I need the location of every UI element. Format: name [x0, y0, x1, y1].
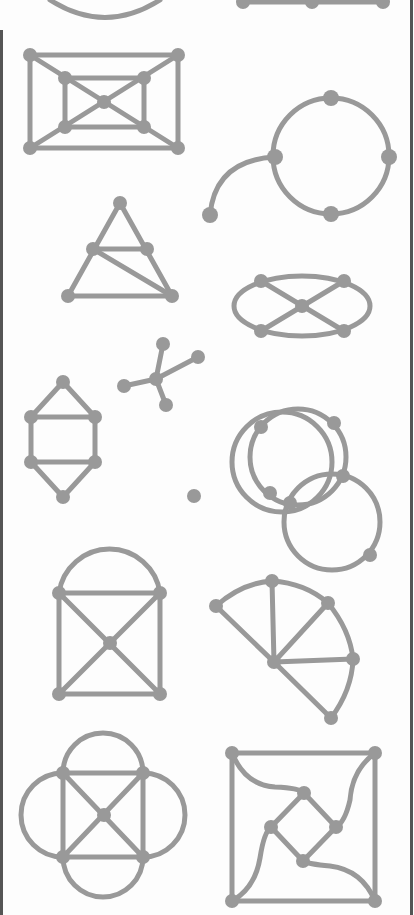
left-scan-border [0, 30, 3, 915]
graph-vertex [171, 141, 185, 155]
graph-vertex [86, 242, 100, 256]
graph-vertex [376, 0, 390, 9]
graph-edge [274, 603, 328, 662]
graph-edge [336, 753, 375, 827]
graph-vertex [267, 149, 283, 165]
graph-vertex [52, 687, 66, 701]
graph-vertex [153, 687, 167, 701]
three-interlocking-circles-graph [187, 409, 380, 570]
graph-vertex [52, 586, 66, 600]
graph-vertex [209, 599, 223, 613]
graph-vertex [263, 486, 277, 500]
hexagon-with-chords-graph [24, 375, 102, 504]
graph-edge [232, 412, 332, 512]
graph-vertex [381, 149, 397, 165]
graph-vertex [23, 141, 37, 155]
graph-vertex [337, 324, 351, 338]
graph-edge [21, 773, 63, 857]
graph-vertex [56, 490, 70, 504]
fan-sector-graph [209, 574, 360, 725]
star-tree-graph [117, 337, 205, 412]
graph-edge [232, 827, 271, 901]
graph-edge [232, 753, 304, 793]
graph-vertex [137, 120, 151, 134]
graph-vertex [97, 808, 111, 822]
graph-vertex [56, 375, 70, 389]
four-petal-square-graph [21, 733, 185, 897]
graph-vertex [97, 95, 111, 109]
graph-vertex [336, 469, 350, 483]
graph-vertex [267, 655, 281, 669]
graph-vertex [296, 854, 310, 868]
graph-vertex [136, 766, 150, 780]
graph-vertex [324, 711, 338, 725]
graph-vertex [305, 0, 319, 9]
graph-vertex [171, 48, 185, 62]
graph-edge [272, 581, 274, 662]
graph-vertex [337, 274, 351, 288]
graph-edge [59, 549, 160, 593]
graph-vertex [346, 652, 360, 666]
graph-vertex [323, 90, 339, 106]
circle-with-tail-graph [202, 90, 397, 223]
partial-circle-graph-top-left [50, 0, 160, 18]
graph-vertex [236, 0, 250, 9]
graph-vertex [58, 120, 72, 134]
partial-path-graph-top-right [236, 0, 390, 9]
graph-vertex [254, 274, 268, 288]
graph-edge [63, 857, 143, 897]
graph-collection [21, 0, 397, 908]
graph-diagram-page [0, 0, 414, 915]
graph-vertex [329, 820, 343, 834]
graph-vertex [113, 196, 127, 210]
graph-vertex [56, 850, 70, 864]
graph-vertex [191, 350, 205, 364]
graph-edge [143, 773, 185, 857]
graph-vertex [323, 206, 339, 222]
graph-edge [216, 606, 274, 662]
graph-edge [274, 662, 331, 718]
graph-edge [274, 659, 353, 662]
arch-over-crossed-square-graph [52, 549, 167, 701]
graph-vertex [159, 398, 173, 412]
graph-edge [31, 382, 95, 497]
graph-edge [271, 793, 336, 861]
graph-vertex [297, 786, 311, 800]
graph-vertex [225, 894, 239, 908]
graph-vertex [363, 548, 377, 562]
graph-vertex [283, 496, 297, 510]
graph-vertex [88, 455, 102, 469]
graph-vertex [165, 289, 179, 303]
graph-vertex [58, 71, 72, 85]
graph-vertex [202, 207, 218, 223]
graph-vertex [88, 410, 102, 424]
graph-vertex [265, 574, 279, 588]
graph-vertex [24, 455, 38, 469]
graph-vertex [321, 596, 335, 610]
graph-vertex [156, 337, 170, 351]
graph-vertex [23, 48, 37, 62]
graph-vertex [56, 766, 70, 780]
graph-vertex [187, 489, 201, 503]
graph-vertex [24, 410, 38, 424]
nested-rectangles-graph [23, 48, 185, 155]
graph-vertex [368, 894, 382, 908]
graph-edge [50, 0, 160, 18]
graph-edge [156, 357, 198, 379]
graph-vertex [149, 372, 163, 386]
graph-edge [63, 733, 143, 773]
right-scan-border [410, 0, 413, 915]
graph-vertex [153, 586, 167, 600]
graph-vertex [225, 746, 239, 760]
graph-edge [303, 861, 375, 901]
graph-vertex [61, 289, 75, 303]
ellipse-cross-graph [234, 274, 370, 338]
subdivided-triangle-graph [61, 196, 179, 303]
graph-vertex [137, 71, 151, 85]
graph-vertex [136, 850, 150, 864]
square-with-inner-diamond-graph [225, 746, 382, 908]
graph-vertex [327, 416, 341, 430]
graph-vertex [368, 746, 382, 760]
graph-vertex [264, 820, 278, 834]
graph-edge [273, 98, 389, 214]
